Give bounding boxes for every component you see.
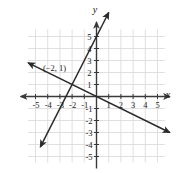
y-tick-label: -5 bbox=[85, 152, 92, 162]
y-tick-label: -4 bbox=[85, 140, 93, 150]
y-tick-label: 5 bbox=[87, 32, 91, 42]
coordinate-plane-figure: -5-4-3-2-112345 54321-1-2-3-4-5 xy(−2, 1… bbox=[0, 0, 178, 173]
x-axis-label: x bbox=[165, 89, 171, 100]
intersection-point-label: (−2, 1) bbox=[43, 63, 66, 73]
x-tick-label: 3 bbox=[131, 100, 135, 110]
y-tick-label: 1 bbox=[87, 80, 91, 90]
plotted-lines bbox=[28, 13, 170, 147]
y-tick-label: 2 bbox=[87, 68, 91, 78]
x-tick-label: -2 bbox=[69, 100, 76, 110]
y-tick-label: -1 bbox=[85, 104, 92, 114]
y-tick-label: 3 bbox=[87, 56, 91, 66]
plot-line-steep-positive-slope-line bbox=[40, 13, 108, 147]
plot-line-shallow-negative-slope-line bbox=[28, 63, 170, 133]
x-tick-label: 4 bbox=[143, 100, 148, 110]
graph-canvas: -5-4-3-2-112345 54321-1-2-3-4-5 xy(−2, 1… bbox=[0, 0, 178, 173]
x-tick-label: 5 bbox=[155, 100, 159, 110]
x-tick-label: -3 bbox=[57, 100, 64, 110]
y-tick-label: -3 bbox=[85, 128, 92, 138]
x-tick-label: -5 bbox=[32, 100, 39, 110]
x-tick-label: 2 bbox=[119, 100, 123, 110]
x-tick-label: -4 bbox=[45, 100, 53, 110]
y-axis-label: y bbox=[92, 4, 98, 15]
x-tick-label: 1 bbox=[107, 100, 111, 110]
y-tick-label: -2 bbox=[85, 116, 92, 126]
